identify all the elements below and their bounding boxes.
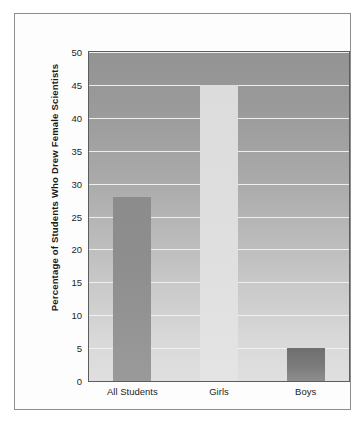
y-tick-label: 25 [58,211,82,222]
y-tick-label: 15 [58,277,82,288]
x-tick-label: All Students [107,386,158,397]
x-axis-tick-labels: All StudentsGirlsBoys [88,386,350,406]
y-tick-label: 30 [58,178,82,189]
y-tick-label: 10 [58,310,82,321]
x-tick-label: Boys [295,386,316,397]
bar-boys [287,348,325,381]
y-tick-label: 40 [58,112,82,123]
bar-all-students [113,197,151,381]
y-tick-label: 20 [58,244,82,255]
gridline [89,52,349,53]
figure: Percentage of Students Who Drew Female S… [0,0,364,426]
y-tick-label: 50 [58,47,82,58]
plot-area [88,51,350,382]
x-tick-label: Girls [209,386,229,397]
y-tick-label: 5 [58,343,82,354]
y-tick-label: 0 [58,376,82,387]
bar-girls [200,85,238,381]
y-tick-label: 45 [58,79,82,90]
y-tick-label: 35 [58,145,82,156]
y-axis-tick-labels: 05101520253035404550 [56,51,82,382]
figure-border: Percentage of Students Who Drew Female S… [14,13,351,410]
